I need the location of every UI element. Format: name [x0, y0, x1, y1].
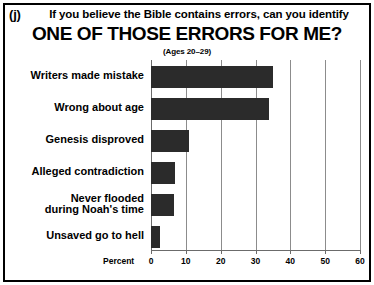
- category-label: Genesis disproved: [46, 134, 144, 146]
- category-label: Alleged contradiction: [32, 166, 144, 178]
- chart-header: (j) If you believe the Bible contains er…: [5, 7, 369, 56]
- chart-subtitle: (Ages 20–29): [5, 47, 369, 56]
- x-tick-20: [221, 250, 222, 254]
- x-tick-40: [290, 250, 291, 254]
- panel-letter: (j): [9, 7, 21, 22]
- x-tick-label-60: 60: [355, 256, 364, 266]
- category-label: Unsaved go to hell: [46, 230, 144, 242]
- gridline-60: [360, 60, 361, 250]
- x-tick-label-10: 10: [181, 256, 190, 266]
- x-tick-30: [256, 250, 257, 254]
- category-label: Wrong about age: [54, 102, 144, 114]
- category-label: Writers made mistake: [30, 70, 144, 82]
- chart-figure: (j) If you believe the Bible contains er…: [0, 0, 374, 285]
- figure-inner: (j) If you believe the Bible contains er…: [5, 5, 369, 280]
- plot-area: Writers made mistakeWrong about ageGenes…: [5, 60, 369, 280]
- chart-question: If you believe the Bible contains errors…: [31, 8, 367, 20]
- category-labels: Writers made mistakeWrong about ageGenes…: [5, 60, 148, 250]
- bar: [151, 66, 273, 88]
- bar: [151, 226, 160, 248]
- x-tick-label-0: 0: [149, 256, 154, 266]
- x-tick-label-50: 50: [320, 256, 329, 266]
- bars: [151, 60, 360, 250]
- x-tick-0: [151, 250, 152, 254]
- x-tick-60: [360, 250, 361, 254]
- bar: [151, 130, 189, 152]
- x-tick-label-40: 40: [286, 256, 295, 266]
- x-tick-label-20: 20: [216, 256, 225, 266]
- bar: [151, 98, 269, 120]
- question-row: (j) If you believe the Bible contains er…: [5, 7, 369, 23]
- x-tick-50: [325, 250, 326, 254]
- bar: [151, 162, 175, 184]
- chart-title: ONE OF THOSE ERRORS FOR ME?: [5, 24, 369, 44]
- category-label: Never floodedduring Noah's time: [45, 193, 144, 216]
- x-tick-10: [186, 250, 187, 254]
- bar: [151, 194, 174, 216]
- x-axis-label: Percent: [103, 256, 134, 266]
- x-tick-label-30: 30: [251, 256, 260, 266]
